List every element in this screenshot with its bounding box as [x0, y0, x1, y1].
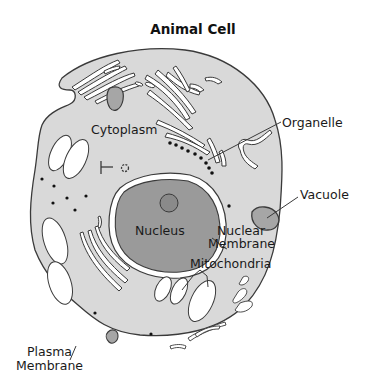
nucleolus — [160, 194, 178, 212]
label-mitochondria: Mitochondria — [190, 257, 271, 271]
label-cytoplasm: Cytoplasm — [91, 123, 157, 137]
label-plasma-membrane-2: Membrane — [16, 359, 83, 373]
vacuole-small-top — [107, 87, 123, 110]
label-nucleus: Nucleus — [135, 224, 185, 238]
label-vacuole: Vacuole — [300, 188, 349, 202]
label-nuclear-membrane-2: Membrane — [208, 237, 275, 251]
label-plasma-membrane-1: Plasma — [27, 345, 72, 359]
label-organelle: Organelle — [282, 116, 343, 130]
